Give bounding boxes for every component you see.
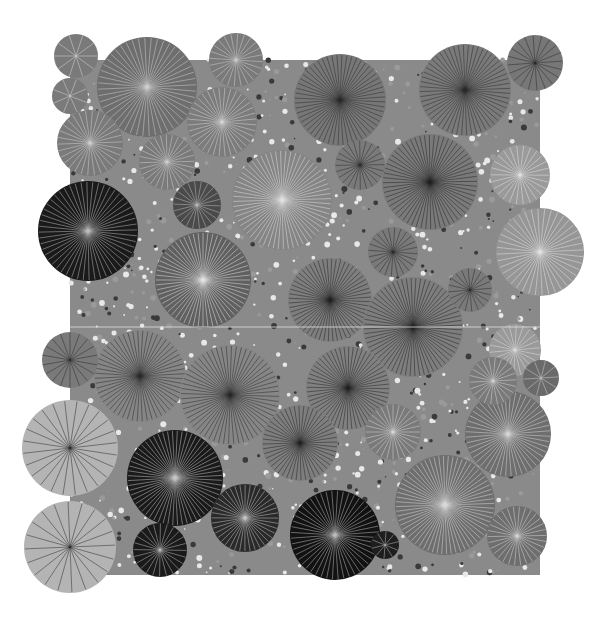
radial-circle (155, 232, 251, 328)
radial-circle (24, 501, 116, 593)
radial-circle (262, 405, 338, 481)
radial-circle (496, 208, 584, 296)
radial-circle (232, 150, 332, 250)
radial-circle (419, 44, 511, 136)
radial-circle (22, 400, 118, 496)
radial-circle (335, 140, 385, 190)
radial-circle (382, 134, 478, 230)
circle-packing-artwork (0, 0, 615, 634)
radial-circle (395, 455, 495, 555)
radial-circle (52, 78, 88, 114)
radial-circle (139, 134, 195, 190)
radial-circle (465, 391, 551, 477)
radial-circle (209, 33, 263, 87)
radial-circle (523, 360, 559, 396)
radial-circle (487, 506, 547, 566)
radial-circle (57, 110, 123, 176)
radial-circle (469, 357, 517, 405)
radial-circle (371, 531, 399, 559)
radial-circle (368, 227, 418, 277)
radial-circle (490, 145, 550, 205)
radial-circle (127, 430, 223, 526)
radial-circle (365, 404, 421, 460)
radial-circle (187, 87, 257, 157)
radial-circle (42, 332, 98, 388)
radial-circle (290, 490, 380, 580)
radial-circle (294, 54, 386, 146)
radial-circle (211, 484, 279, 552)
radial-circle (133, 523, 187, 577)
radial-circle (288, 258, 372, 342)
radial-circle (448, 268, 492, 312)
radial-circle (38, 181, 138, 281)
radial-circle (94, 330, 186, 422)
radial-circle (173, 181, 221, 229)
radial-circle (54, 34, 98, 78)
radial-circle (507, 35, 563, 91)
